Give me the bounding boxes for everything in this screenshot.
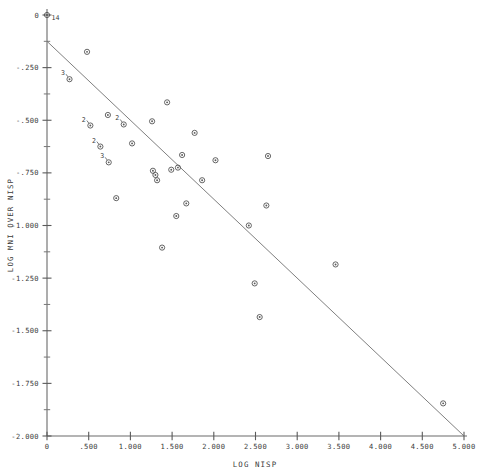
data-point xyxy=(153,172,158,177)
data-point-count-label: 14 xyxy=(52,14,60,22)
x-tick-label: 3.500 xyxy=(327,442,350,451)
x-tick-label: 0 xyxy=(45,442,50,451)
data-point-leader xyxy=(120,119,122,122)
x-tick-label: 1.000 xyxy=(119,442,142,451)
data-point-core xyxy=(259,316,261,318)
data-point-count-label: 3 xyxy=(61,69,65,77)
data-point-core xyxy=(254,282,256,284)
x-tick-label: 3.000 xyxy=(286,442,309,451)
data-point xyxy=(114,196,119,201)
data-point xyxy=(121,122,126,127)
regression-line xyxy=(47,41,464,436)
axes-group xyxy=(43,9,468,440)
x-tick-label: 2.500 xyxy=(244,442,267,451)
data-point-leader xyxy=(105,157,107,160)
data-point-core xyxy=(267,155,269,157)
data-point-core xyxy=(248,225,250,227)
data-point-core xyxy=(194,132,196,134)
x-tick-label: 1.500 xyxy=(161,442,184,451)
data-point xyxy=(184,201,189,206)
data-point-core xyxy=(201,179,203,181)
data-point-core xyxy=(152,170,154,172)
data-point xyxy=(88,123,93,128)
x-tick-label: 2.000 xyxy=(202,442,225,451)
data-point-leader xyxy=(87,121,89,124)
data-point-core xyxy=(442,402,444,404)
x-tick-label: 4.000 xyxy=(369,442,392,451)
data-point-count-label: 2 xyxy=(82,116,86,124)
data-point-count-label: 3 xyxy=(100,152,104,160)
data-point-core xyxy=(170,169,172,171)
y-tick-label: -1.250 xyxy=(11,274,39,283)
data-point-core xyxy=(115,197,117,199)
scatter-plot-figure: 0-.250-.500-.750-1.000-1.250-1.500-1.750… xyxy=(0,0,481,474)
y-tick-label: -.750 xyxy=(16,168,39,177)
x-axis-title: LOG NISP xyxy=(233,460,277,469)
data-point-core xyxy=(215,159,217,161)
y-tick-label: -1.000 xyxy=(11,221,39,230)
data-point-core xyxy=(156,179,158,181)
data-point xyxy=(246,223,251,228)
data-point xyxy=(67,77,72,82)
data-point-core xyxy=(154,174,156,176)
data-point xyxy=(200,178,205,183)
data-point-core xyxy=(185,202,187,204)
data-point xyxy=(265,153,270,158)
data-point xyxy=(264,203,269,208)
data-point xyxy=(105,112,110,117)
data-point-core xyxy=(46,14,48,16)
data-point-core xyxy=(131,142,133,144)
data-point-count-label: 2 xyxy=(115,114,119,122)
data-point-core xyxy=(161,247,163,249)
data-point-core xyxy=(99,146,101,148)
data-point xyxy=(154,178,159,183)
data-point xyxy=(84,49,89,54)
data-point xyxy=(180,152,185,157)
data-points-group xyxy=(44,12,445,406)
data-point-core xyxy=(108,161,110,163)
y-tick-label: -.250 xyxy=(16,63,39,72)
data-point-core xyxy=(177,167,179,169)
data-point xyxy=(164,100,169,105)
data-point xyxy=(252,281,257,286)
data-point-core xyxy=(86,51,88,53)
data-point xyxy=(441,401,446,406)
data-point xyxy=(333,262,338,267)
y-axis-title: LOG MNI OVER NISP xyxy=(6,178,15,272)
data-point xyxy=(159,245,164,250)
data-point-core xyxy=(265,205,267,207)
tick-labels-group: 0-.250-.500-.750-1.000-1.250-1.500-1.750… xyxy=(11,11,475,451)
data-point xyxy=(174,213,179,218)
data-point xyxy=(129,141,134,146)
data-point-leader xyxy=(66,74,68,77)
y-tick-label: 0 xyxy=(34,11,39,20)
data-point xyxy=(149,119,154,124)
y-tick-label: -1.750 xyxy=(11,379,39,388)
data-point xyxy=(257,314,262,319)
data-point-core xyxy=(151,120,153,122)
x-tick-label: 5.000 xyxy=(452,442,475,451)
data-point-core xyxy=(69,78,71,80)
data-point xyxy=(213,158,218,163)
data-point-core xyxy=(166,101,168,103)
x-tick-label: .500 xyxy=(79,442,97,451)
data-point xyxy=(106,160,111,165)
data-point-core xyxy=(175,215,177,217)
data-point xyxy=(98,144,103,149)
data-point-leader xyxy=(97,142,99,145)
data-point xyxy=(169,167,174,172)
data-point-core xyxy=(107,114,109,116)
y-tick-label: -2.000 xyxy=(11,432,39,441)
data-point-core xyxy=(89,125,91,127)
data-point-core xyxy=(181,154,183,156)
chart-canvas: 0-.250-.500-.750-1.000-1.250-1.500-1.750… xyxy=(0,0,481,474)
y-tick-label: -.500 xyxy=(16,116,39,125)
data-point-core xyxy=(335,263,337,265)
regression-line-group xyxy=(47,41,464,436)
data-point-core xyxy=(123,124,125,126)
data-point-count-label: 2 xyxy=(92,137,96,145)
x-tick-label: 4.500 xyxy=(411,442,434,451)
y-tick-label: -1.500 xyxy=(11,326,39,335)
data-point xyxy=(192,130,197,135)
